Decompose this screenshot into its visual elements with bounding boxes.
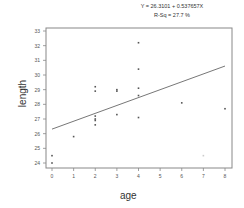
svg-text:4: 4	[137, 173, 140, 179]
data-point	[138, 87, 140, 89]
svg-text:2: 2	[94, 173, 97, 179]
svg-text:31: 31	[34, 57, 40, 63]
data-point	[94, 120, 96, 122]
x-axis-label: age	[120, 190, 137, 201]
data-point	[94, 124, 96, 126]
svg-text:7: 7	[202, 173, 205, 179]
data-point	[51, 162, 53, 164]
data-point	[116, 114, 118, 116]
svg-text:0: 0	[51, 173, 54, 179]
data-points	[51, 42, 226, 164]
data-point	[138, 117, 140, 119]
data-point	[138, 68, 140, 70]
data-point	[94, 118, 96, 120]
svg-text:3: 3	[115, 173, 118, 179]
svg-text:25: 25	[34, 145, 40, 151]
svg-text:28: 28	[34, 101, 40, 107]
x-axis: 012345678	[51, 168, 227, 179]
svg-text:8: 8	[224, 173, 227, 179]
data-point	[224, 108, 226, 110]
data-point	[203, 155, 205, 157]
svg-text:32: 32	[34, 43, 40, 49]
svg-text:30: 30	[34, 72, 40, 78]
data-point	[51, 155, 53, 157]
data-point	[116, 90, 118, 92]
data-point	[116, 89, 118, 91]
scatter-plot: 24252627282930313233 012345678	[0, 0, 244, 208]
data-point	[138, 95, 140, 97]
y-axis-label: length	[17, 74, 28, 114]
data-point	[138, 42, 140, 44]
data-point	[94, 86, 96, 88]
svg-text:27: 27	[34, 116, 40, 122]
svg-text:5: 5	[159, 173, 162, 179]
data-point	[94, 115, 96, 117]
svg-text:6: 6	[180, 173, 183, 179]
data-point	[73, 136, 75, 138]
svg-text:26: 26	[34, 131, 40, 137]
svg-text:24: 24	[34, 160, 40, 166]
svg-text:1: 1	[72, 173, 75, 179]
regression-line	[52, 66, 225, 129]
plot-frame	[46, 28, 232, 168]
y-axis: 24252627282930313233	[34, 28, 46, 166]
data-point	[94, 90, 96, 92]
svg-text:29: 29	[34, 87, 40, 93]
data-point	[181, 102, 183, 104]
svg-text:33: 33	[34, 28, 40, 34]
